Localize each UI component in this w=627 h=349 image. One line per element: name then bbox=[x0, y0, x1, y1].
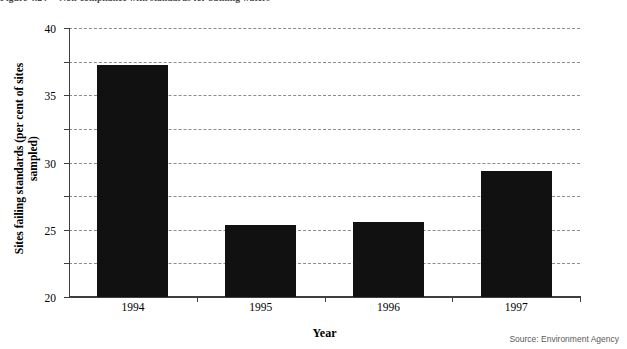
y-tick-label: 30 bbox=[45, 158, 57, 170]
figure-caption-number: Figure 4.24 bbox=[0, 0, 47, 3]
bar-1994 bbox=[97, 65, 168, 297]
y-axis-title-line2: sampled) bbox=[26, 29, 40, 289]
bar-1996 bbox=[353, 222, 424, 297]
y-tick-label: 40 bbox=[45, 23, 57, 35]
x-tick-label-1995: 1995 bbox=[197, 301, 325, 313]
y-axis-title: Sites failing standards (per cent of sit… bbox=[13, 29, 40, 289]
y-tick-mark: 20 bbox=[64, 163, 70, 164]
figure-caption: Figure 4.24 Non-compliance with standard… bbox=[0, 0, 627, 5]
plot-area: 0510152025303540 bbox=[69, 28, 580, 297]
y-axis-title-line1: Sites failing standards (per cent of sit… bbox=[13, 29, 27, 289]
source-note: Source: Environment Agency bbox=[509, 334, 619, 344]
y-tick-mark: 35 bbox=[64, 62, 70, 63]
y-tick-mark: 30 bbox=[64, 95, 70, 96]
y-tick-mark: 5 bbox=[64, 263, 70, 264]
x-axis-end-tick bbox=[580, 296, 581, 302]
y-tick-label: 20 bbox=[45, 292, 57, 304]
x-axis-title: Year bbox=[69, 326, 580, 341]
y-tick-label: 25 bbox=[45, 225, 57, 237]
y-tick-mark: 15 bbox=[64, 196, 70, 197]
bar-1995 bbox=[225, 225, 296, 297]
figure-caption-text: Non-compliance with standards for bathin… bbox=[59, 0, 270, 3]
bar-1997 bbox=[481, 171, 552, 297]
figure-container: Figure 4.24 Non-compliance with standard… bbox=[0, 0, 627, 349]
x-tick-label-1997: 1997 bbox=[452, 301, 580, 313]
y-tick-label: 35 bbox=[45, 90, 57, 102]
x-tick-label-1994: 1994 bbox=[69, 301, 197, 313]
y-tick-mark: 0 bbox=[64, 297, 70, 298]
x-tick-label-1996: 1996 bbox=[325, 301, 453, 313]
y-tick-mark: 10 bbox=[64, 230, 70, 231]
y-tick-mark: 40 bbox=[64, 28, 70, 29]
y-gridline bbox=[69, 62, 580, 63]
y-tick-mark: 25 bbox=[64, 129, 70, 130]
y-gridline bbox=[69, 28, 580, 29]
